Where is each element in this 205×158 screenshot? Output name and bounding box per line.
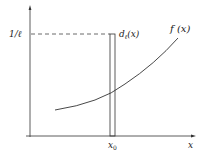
bar-label-arg: (x): [127, 29, 140, 39]
bar-label: dℓ(x): [119, 29, 140, 40]
x-axis-label: x: [188, 140, 193, 150]
x-axis-arrow-icon: [191, 135, 196, 138]
density-bar: [110, 34, 115, 136]
svg-text:dℓ(x): dℓ(x): [119, 29, 140, 40]
density-diagram: 1/ℓ dℓ(x) f (x) x0 x: [0, 0, 205, 158]
svg-text:x0: x0: [108, 140, 117, 151]
y-axis: [29, 5, 32, 137]
curve-label: f (x): [169, 23, 190, 34]
curve-f: [55, 38, 178, 110]
x0-tick-label: x0: [108, 140, 117, 151]
x0-sub: 0: [113, 144, 117, 151]
y-axis-arrow-icon: [29, 5, 32, 10]
y-tick-label: 1/ℓ: [9, 29, 22, 39]
